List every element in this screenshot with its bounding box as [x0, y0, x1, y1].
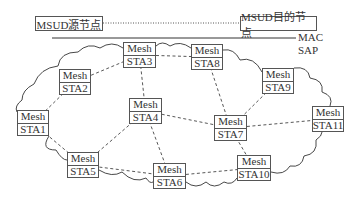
mesh-node-sta10: MeshSTA10 [237, 155, 271, 181]
mesh-node-sta1: MeshSTA1 [17, 110, 49, 136]
msud-source-node: MSUD源节点 [35, 16, 103, 31]
node-type-label: Mesh [215, 116, 246, 128]
mesh-node-sta2: MeshSTA2 [59, 69, 91, 95]
node-id-label: STA8 [192, 57, 222, 70]
node-type-label: Mesh [192, 45, 222, 57]
node-type-label: Mesh [238, 156, 270, 168]
mesh-node-sta7: MeshSTA7 [214, 115, 247, 141]
node-id-label: STA10 [238, 168, 270, 181]
node-type-label: Mesh [154, 164, 185, 176]
node-id-label: STA6 [154, 176, 185, 189]
mac-label: MAC [298, 31, 323, 43]
msud-destination-node: MSUD目的节点 [240, 16, 317, 31]
node-type-label: Mesh [124, 43, 155, 55]
sap-label: SAP [298, 44, 318, 56]
node-id-label: STA4 [130, 111, 161, 124]
node-id-label: STA5 [68, 165, 98, 178]
mesh-node-sta11: MeshSTA11 [312, 106, 344, 132]
mesh-node-sta6: MeshSTA6 [153, 163, 186, 189]
node-type-label: Mesh [18, 111, 48, 123]
mesh-node-sta3: MeshSTA3 [123, 42, 156, 68]
node-id-label: STA11 [313, 119, 343, 132]
node-id-label: STA3 [124, 55, 155, 68]
node-id-label: STA1 [18, 123, 48, 136]
node-id-label: STA9 [263, 81, 293, 94]
node-type-label: Mesh [313, 107, 343, 119]
node-type-label: Mesh [68, 153, 98, 165]
node-type-label: Mesh [130, 99, 161, 111]
mesh-node-sta5: MeshSTA5 [67, 152, 99, 178]
node-type-label: Mesh [60, 70, 90, 82]
mesh-node-sta8: MeshSTA8 [191, 44, 223, 70]
node-type-label: Mesh [263, 69, 293, 81]
mesh-node-sta4: MeshSTA4 [129, 98, 162, 124]
node-id-label: STA7 [215, 128, 246, 141]
mesh-node-sta9: MeshSTA9 [262, 68, 294, 94]
node-id-label: STA2 [60, 82, 90, 95]
